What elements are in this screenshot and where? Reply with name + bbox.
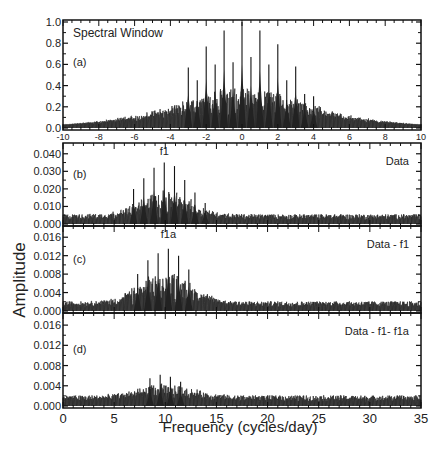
y-tick-label: 0.008 bbox=[33, 360, 61, 372]
x-tick-label: 5 bbox=[111, 411, 118, 426]
y-tick-label: 0.000 bbox=[33, 400, 61, 412]
panel-d: 0.0000.0040.0080.0120.01605101520253035(… bbox=[33, 313, 428, 426]
x-tick-label: 20 bbox=[260, 411, 274, 426]
y-tick-label: 0.012 bbox=[33, 339, 61, 351]
y-tick-label: 0.004 bbox=[33, 380, 61, 392]
x-tick-label: 30 bbox=[363, 411, 377, 426]
y-tick-label: 0.010 bbox=[33, 200, 61, 212]
y-tick-label: 0.012 bbox=[33, 250, 61, 262]
y-tick-label: 1.0 bbox=[46, 16, 61, 28]
x-tick-label: -8 bbox=[95, 132, 103, 142]
y-tick-label: 0.6 bbox=[46, 58, 61, 70]
panel-b: 0.0000.0100.0200.0300.040(b)Dataf1 bbox=[33, 143, 421, 230]
panel-label: (a) bbox=[73, 56, 86, 68]
peak-body bbox=[238, 64, 246, 128]
y-tick-label: 0.016 bbox=[33, 231, 61, 243]
x-tick-label: -2 bbox=[202, 132, 210, 142]
panel-frame bbox=[63, 143, 421, 226]
peak-body bbox=[256, 69, 264, 128]
x-tick-label: 8 bbox=[383, 132, 388, 142]
x-tick-label: 10 bbox=[158, 411, 172, 426]
panel-annotation: Data - f1- f1a bbox=[345, 325, 410, 337]
y-tick-label: 0.000 bbox=[33, 218, 61, 230]
y-tick-label: 0.8 bbox=[46, 37, 61, 49]
panel-c: 0.0000.0040.0080.0120.016(c)Data - f1f1a bbox=[33, 226, 421, 317]
x-tick-label: 25 bbox=[311, 411, 325, 426]
y-tick-label: 0.008 bbox=[33, 268, 61, 280]
panel-title: Spectral Window bbox=[73, 26, 163, 40]
x-tick-label: 35 bbox=[414, 411, 428, 426]
panel-label: (d) bbox=[73, 343, 86, 355]
spectrum-trace bbox=[63, 384, 421, 406]
peak-label: f1 bbox=[160, 145, 169, 157]
x-tick-label: 2 bbox=[275, 132, 280, 142]
spectrum-trace bbox=[63, 274, 421, 311]
y-tick-label: 0.030 bbox=[33, 165, 61, 177]
y-tick-label: 0.040 bbox=[33, 148, 61, 160]
y-tick-label: 0.016 bbox=[33, 319, 61, 331]
panel-annotation: Data - f1 bbox=[367, 238, 409, 250]
x-tick-label: 0 bbox=[59, 411, 66, 426]
x-tick-label: -6 bbox=[131, 132, 139, 142]
y-tick-label: 0.020 bbox=[33, 183, 61, 195]
x-tick-label: -4 bbox=[166, 132, 174, 142]
chart-canvas: Amplitude Frequency (cycles/day) 0.00.20… bbox=[0, 0, 444, 455]
y-tick-label: 0.4 bbox=[46, 80, 61, 92]
panel-a: 0.00.20.40.60.81.0-10-8-6-4-20246810(a)S… bbox=[46, 16, 426, 142]
spectral-figure: Amplitude Frequency (cycles/day) 0.00.20… bbox=[0, 0, 444, 455]
x-tick-label: -10 bbox=[56, 132, 69, 142]
x-tick-label: 15 bbox=[209, 411, 223, 426]
x-tick-label: 6 bbox=[347, 132, 352, 142]
x-axis-label: Frequency (cycles/day) bbox=[162, 418, 317, 435]
x-tick-label: 4 bbox=[311, 132, 316, 142]
x-tick-label: 10 bbox=[416, 132, 426, 142]
y-tick-label: 0.000 bbox=[33, 305, 61, 317]
panel-label: (c) bbox=[73, 253, 86, 265]
y-tick-label: 0.004 bbox=[33, 287, 61, 299]
y-axis-label: Amplitude bbox=[10, 242, 29, 318]
panel-annotation: Data bbox=[386, 155, 410, 167]
spectrum-trace bbox=[63, 191, 421, 225]
y-tick-label: 0.2 bbox=[46, 101, 61, 113]
panel-label: (b) bbox=[73, 168, 86, 180]
peak-label: f1a bbox=[161, 228, 177, 240]
x-tick-label: 0 bbox=[239, 132, 244, 142]
